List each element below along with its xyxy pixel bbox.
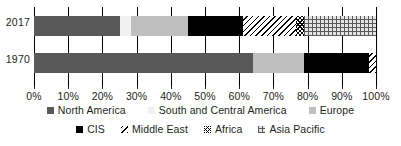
legend-swatch-north-america-icon — [47, 107, 54, 114]
bar-segment-2017-cis — [188, 16, 243, 36]
bar-segment-2017-europe — [131, 16, 187, 36]
bar-segment-2017-middle-east — [243, 16, 296, 36]
chart-legend: North AmericaSouth and Central AmericaEu… — [0, 104, 401, 146]
x-axis-tick-20 — [102, 86, 103, 89]
x-axis-tick-label-90: 90% — [331, 90, 352, 102]
legend-swatch-cis-icon — [76, 126, 83, 133]
x-axis-tick-label-0: 0% — [26, 90, 41, 102]
y-axis-label-1970: 1970 — [6, 53, 30, 65]
legend-item-north-america[interactable]: North America — [47, 105, 126, 116]
legend-item-africa[interactable]: Africa — [204, 124, 242, 135]
legend-swatch-europe-icon — [309, 107, 316, 114]
legend-label-north-america: North America — [58, 105, 126, 116]
bar-segment-1970-europe — [253, 53, 304, 73]
bar-segment-1970-cis — [304, 53, 369, 73]
legend-label-middle-east: Middle East — [132, 124, 188, 135]
x-axis: 0%10%20%30%40%50%60%70%80%90%100% — [34, 86, 376, 104]
bar-segment-2017-south-central-america — [120, 16, 132, 36]
x-axis-tick-label-70: 70% — [263, 90, 284, 102]
x-axis-tick-10 — [68, 86, 69, 89]
x-axis-tick-0 — [34, 86, 35, 89]
legend-label-africa: Africa — [215, 124, 242, 135]
legend-item-middle-east[interactable]: Middle East — [121, 124, 188, 135]
bar-row-2017 — [34, 16, 376, 36]
bar-row-1970 — [34, 53, 376, 73]
bar-segment-1970-north-america — [34, 53, 253, 73]
gridline-100 — [376, 7, 377, 86]
legend-item-south-central-america[interactable]: South and Central America — [148, 105, 287, 116]
legend-swatch-asia-pacific-icon — [258, 126, 265, 133]
x-axis-tick-30 — [137, 86, 138, 89]
x-axis-tick-label-60: 60% — [229, 90, 250, 102]
legend-item-europe[interactable]: Europe — [309, 105, 354, 116]
y-axis-label-2017: 2017 — [6, 16, 30, 28]
plot-wrapper: 2017 1970 0%10%20%30%40%50%60%70%80%90%1… — [0, 0, 401, 104]
x-axis-tick-100 — [376, 86, 377, 89]
stacked-bar-chart: 2017 1970 0%10%20%30%40%50%60%70%80%90%1… — [0, 0, 401, 146]
legend-swatch-south-central-america-icon — [148, 107, 155, 114]
plot-area — [34, 7, 376, 86]
legend-swatch-africa-icon — [204, 126, 211, 133]
bar-segment-2017-africa — [296, 16, 305, 36]
x-axis-tick-label-10: 10% — [58, 90, 79, 102]
bar-segment-2017-north-america — [34, 16, 120, 36]
x-axis-tick-label-30: 30% — [126, 90, 147, 102]
y-axis-category-labels: 2017 1970 — [0, 0, 33, 86]
x-axis-tick-50 — [205, 86, 206, 89]
x-axis-tick-label-20: 20% — [92, 90, 113, 102]
x-axis-tick-80 — [308, 86, 309, 89]
legend-row-2: CISMiddle EastAfricaAsia Pacific — [0, 124, 401, 135]
x-axis-tick-label-50: 50% — [194, 90, 215, 102]
legend-label-south-central-america: South and Central America — [159, 105, 287, 116]
x-axis-tick-label-40: 40% — [160, 90, 181, 102]
legend-item-asia-pacific[interactable]: Asia Pacific — [258, 124, 324, 135]
bar-segment-1970-middle-east — [369, 53, 376, 73]
x-axis-tick-60 — [239, 86, 240, 89]
bar-segment-2017-asia-pacific — [304, 16, 376, 36]
x-axis-tick-40 — [171, 86, 172, 89]
legend-swatch-middle-east-icon — [121, 126, 128, 133]
legend-row-1: North AmericaSouth and Central AmericaEu… — [0, 105, 401, 116]
legend-label-europe: Europe — [320, 105, 354, 116]
legend-label-asia-pacific: Asia Pacific — [269, 124, 324, 135]
legend-item-cis[interactable]: CIS — [76, 124, 105, 135]
x-axis-tick-90 — [342, 86, 343, 89]
x-axis-tick-70 — [273, 86, 274, 89]
x-axis-tick-label-100: 100% — [362, 90, 389, 102]
x-axis-tick-label-80: 80% — [297, 90, 318, 102]
legend-label-cis: CIS — [87, 124, 105, 135]
